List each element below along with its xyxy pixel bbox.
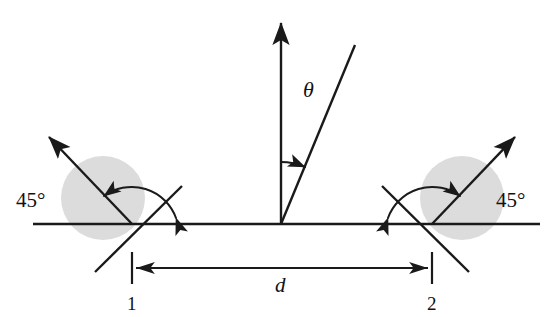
station-label-2: 2 [427, 293, 437, 314]
scattering-disc-left [61, 156, 145, 240]
distance-label: d [275, 273, 286, 297]
station-label-1: 1 [127, 293, 137, 314]
theta-ray-line [281, 45, 355, 224]
angle-label-left: 45° [16, 188, 45, 212]
optics-geometry-diagram: 45° 45° θ d 1 2 [0, 0, 560, 317]
theta-label: θ [303, 77, 314, 102]
figure-canvas: 45° 45° θ d 1 2 [0, 0, 560, 317]
scattering-disc-right [420, 156, 504, 240]
theta-angle-arc [281, 162, 305, 167]
angle-label-right: 45° [496, 188, 525, 212]
